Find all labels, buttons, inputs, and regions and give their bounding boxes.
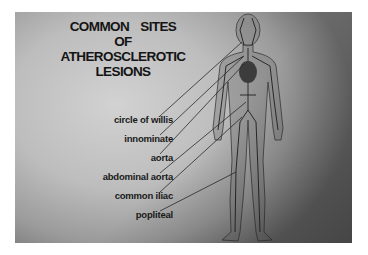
body-figure [15, 12, 352, 243]
heart [239, 61, 257, 83]
leader-line-popliteal [160, 172, 236, 211]
diagram-photo: COMMON SITES OF ATHEROSCLEROTIC LESIONS … [15, 12, 352, 243]
leader-line-common-iliac [160, 117, 242, 192]
